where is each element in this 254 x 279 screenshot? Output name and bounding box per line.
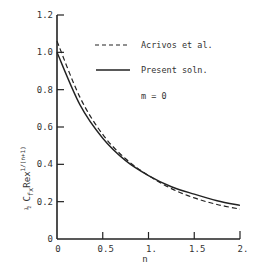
y-tick-label: 0.2 <box>37 197 53 207</box>
x-tick-label: 2. <box>238 244 249 254</box>
x-tick-label: 0.5 <box>98 244 114 254</box>
y-title-half: ½ <box>24 202 32 210</box>
y-title-sub: fx <box>27 188 35 196</box>
x-tick-label: 1.5 <box>189 244 205 254</box>
y-tick-label: 0.4 <box>37 159 53 169</box>
x-axis-title: n <box>142 254 147 264</box>
y-title-exp: 1/(n+1) <box>19 146 26 171</box>
y-tick-label: 0.6 <box>37 122 53 132</box>
y-tick-label: 0.8 <box>37 85 53 95</box>
chart: 00.20.40.60.81.01.200.51.1.52. Acrivos e… <box>0 0 254 279</box>
y-tick-label: 1.0 <box>37 47 53 57</box>
legend: Acrivos et al. Present soln. m = 0 <box>95 40 213 101</box>
y-tick-label: 0 <box>48 234 53 244</box>
y-tick-label: 1.2 <box>37 10 53 20</box>
y-axis-title: ½ CfxRex1/(n+1) <box>19 146 35 210</box>
legend-dashed-label: Acrivos et al. <box>141 40 213 50</box>
x-tick-label: 0 <box>55 244 60 254</box>
x-tick-label: 1. <box>146 244 157 254</box>
legend-solid-label: Present soln. <box>141 65 208 75</box>
y-title-re: Rex <box>22 171 32 188</box>
svg-text:½ CfxRex1/(n+1): ½ CfxRex1/(n+1) <box>19 146 35 210</box>
present-soln-curve <box>57 52 240 205</box>
annotation-m: m = 0 <box>141 91 167 101</box>
